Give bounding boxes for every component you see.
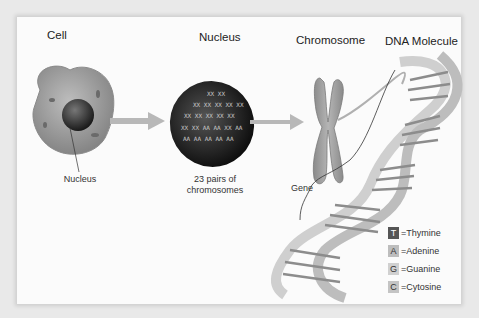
- arrow-cell-to-nucleus: [110, 112, 165, 130]
- legend-item-guanine: G =Guanine: [388, 260, 441, 278]
- label-gene: Gene: [291, 183, 313, 194]
- nucleus-illustration: XX XX XX XX XX XX XX XX XX XX XX XX XX X…: [158, 69, 266, 179]
- label-cell-nucleus: Nucleus: [60, 174, 100, 185]
- svg-text:AA AA AA AA AA: AA AA AA AA AA: [183, 135, 234, 142]
- legend-item-thymine: T =Thymine: [388, 224, 441, 242]
- title-nucleus: Nucleus: [199, 31, 241, 43]
- legend-text-thymine: =Thymine: [401, 228, 441, 238]
- title-chromosome: Chromosome: [296, 34, 365, 46]
- legend-text-cytosine: =Cytosine: [401, 282, 441, 292]
- legend-text-adenine: =Adenine: [401, 246, 439, 256]
- swatch-cytosine: C: [388, 281, 399, 293]
- swatch-guanine: G: [388, 263, 399, 275]
- base-legend: T =Thymine A =Adenine G =Guanine C =Cyto…: [388, 224, 441, 296]
- swatch-adenine: A: [388, 245, 399, 257]
- legend-item-adenine: A =Adenine: [388, 242, 441, 260]
- swatch-thymine: T: [388, 227, 399, 239]
- svg-text:XX XX XX XX XX: XX XX XX XX XX: [184, 112, 235, 119]
- svg-text:XX XX: XX XX: [207, 90, 225, 97]
- legend-item-cytosine: C =Cytosine: [388, 278, 441, 296]
- svg-text:XX XX AA AA XX AA: XX XX AA AA XX AA: [181, 124, 243, 131]
- label-23-pairs: 23 pairs of chromosomes: [180, 174, 250, 196]
- label-pairs-line2: chromosomes: [180, 185, 250, 196]
- svg-text:XX XX XX XX XX: XX XX XX XX XX: [193, 101, 244, 108]
- label-pairs-line1: 23 pairs of: [180, 174, 250, 185]
- legend-text-guanine: =Guanine: [401, 264, 440, 274]
- cell-illustration: [33, 66, 114, 172]
- arrow-nucleus-to-chromosome: [250, 114, 304, 130]
- chromosome-illustration: [313, 73, 405, 184]
- title-dna-molecule: DNA Molecule: [385, 35, 458, 47]
- title-cell: Cell: [47, 29, 67, 41]
